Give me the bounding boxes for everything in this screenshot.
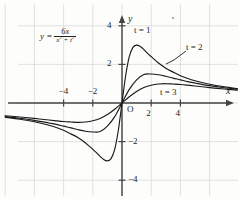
- curve-label-t2: t = 2: [186, 43, 203, 52]
- function-plot-figure: y = 6x x2 + t2 O x y t = 1 t = 2 t = 3 −…: [0, 0, 239, 199]
- x-axis-name: x: [226, 86, 230, 96]
- curve-label-t3: t = 3: [160, 88, 177, 97]
- y-axis-name: y: [128, 14, 132, 24]
- leader-line-t2: [166, 51, 186, 64]
- y-tick-label-neg2: −2: [128, 137, 138, 146]
- x-tick-label-neg4: −4: [59, 87, 69, 96]
- plot-canvas: [0, 0, 239, 199]
- x-tick-label-pos4: 4: [175, 109, 180, 118]
- y-tick-label-neg4: −4: [128, 175, 138, 184]
- speck-artifact: [172, 17, 174, 19]
- leader-lines: [166, 51, 186, 64]
- equation-label: y = 6x x2 + t2: [40, 27, 76, 44]
- curve-label-t1: t = 1: [134, 26, 151, 35]
- equation-lhs: y =: [40, 31, 52, 41]
- origin-label: O: [127, 105, 134, 114]
- y-tick-label-pos4: 4: [107, 21, 112, 30]
- equation-fraction: 6x x2 + t2: [54, 27, 76, 44]
- x-tick-label-neg2: −2: [88, 87, 98, 96]
- equation-denominator: x2 + t2: [54, 36, 76, 44]
- y-tick-label-pos2: 2: [107, 59, 112, 68]
- x-tick-label-pos2: 2: [146, 109, 151, 118]
